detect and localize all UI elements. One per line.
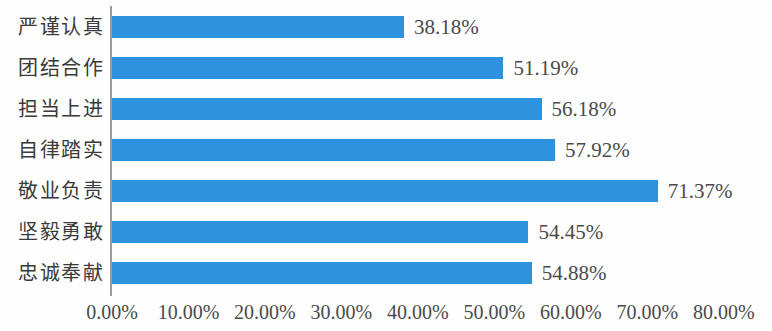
bar-value-label: 71.37% — [668, 171, 733, 212]
category-label: 坚毅勇敢 — [18, 212, 104, 253]
x-tick-label: 0.00% — [86, 301, 138, 324]
bar — [112, 98, 542, 120]
bar-value-label: 54.45% — [538, 212, 603, 253]
x-tick-label: 50.00% — [464, 301, 526, 324]
bar-value-label: 51.19% — [513, 48, 578, 89]
category-label: 敬业负责 — [18, 171, 104, 212]
bar-value-label: 57.92% — [565, 130, 630, 171]
bar — [112, 139, 555, 161]
bar — [112, 262, 532, 284]
x-axis: 0.00%10.00%20.00%30.00%40.00%50.00%60.00… — [0, 297, 772, 331]
bar-row: 严谨认真38.18% — [0, 7, 772, 48]
bar-value-label: 38.18% — [414, 7, 479, 48]
x-tick-label: 40.00% — [387, 301, 449, 324]
category-label: 严谨认真 — [18, 7, 104, 48]
bar-row: 团结合作51.19% — [0, 48, 772, 89]
category-label: 团结合作 — [18, 48, 104, 89]
bar — [112, 180, 658, 202]
bar-track — [112, 7, 404, 48]
bar-track — [112, 171, 658, 212]
bar-row: 敬业负责71.37% — [0, 171, 772, 212]
category-label: 忠诚奉献 — [18, 253, 104, 294]
category-label: 担当上进 — [18, 89, 104, 130]
bar-track — [112, 48, 503, 89]
x-tick-label: 70.00% — [616, 301, 678, 324]
x-tick-label: 60.00% — [540, 301, 602, 324]
x-tick-label: 20.00% — [234, 301, 296, 324]
x-tick-label: 30.00% — [311, 301, 373, 324]
bar-chart: 严谨认真38.18%团结合作51.19%担当上进56.18%自律踏实57.92%… — [0, 0, 772, 331]
bar-track — [112, 89, 542, 130]
bar — [112, 221, 528, 243]
bar-value-label: 56.18% — [552, 89, 617, 130]
bar — [112, 57, 503, 79]
bar-row: 担当上进56.18% — [0, 89, 772, 130]
category-label: 自律踏实 — [18, 130, 104, 171]
bar-row: 坚毅勇敢54.45% — [0, 212, 772, 253]
x-tick-label: 80.00% — [693, 301, 755, 324]
x-tick-label: 10.00% — [158, 301, 220, 324]
bar-track — [112, 212, 528, 253]
bar-track — [112, 130, 555, 171]
bar-value-label: 54.88% — [542, 253, 607, 294]
bar-row: 忠诚奉献54.88% — [0, 253, 772, 294]
bar-row: 自律踏实57.92% — [0, 130, 772, 171]
plot-area: 严谨认真38.18%团结合作51.19%担当上进56.18%自律踏实57.92%… — [0, 0, 772, 297]
bar-track — [112, 253, 532, 294]
bar — [112, 16, 404, 38]
